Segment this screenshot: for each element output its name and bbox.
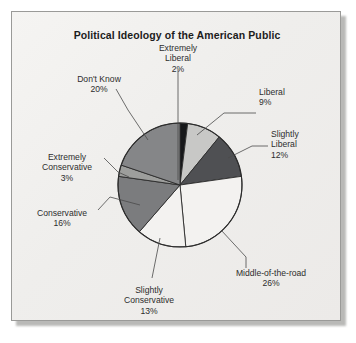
pie-slice-middle-of-the-road[interactable] [180, 176, 242, 246]
pie-label-name2-extremely-liberal: Liberal [141, 53, 215, 63]
pie-label-slightly-liberal: SlightlyLiberal12% [271, 129, 327, 160]
pie-label-extremely-liberal: ExtremelyLiberal2% [141, 43, 215, 74]
pie-label-name-middle-of-the-road: Middle-of-the-road [223, 268, 319, 278]
pie-label-name-extremely-conservative: Extremely [27, 152, 107, 162]
pie-label-percent-extremely-liberal: 2% [141, 64, 215, 74]
pie-label-extremely-conservative: ExtremelyConservative3% [27, 152, 107, 183]
pie-label-don-t-know: Don't Know20% [58, 74, 140, 95]
pie-label-percent-middle-of-the-road: 26% [223, 278, 319, 288]
pie-slices [118, 123, 242, 247]
pie-label-middle-of-the-road: Middle-of-the-road26% [223, 268, 319, 289]
pie-label-name-don-t-know: Don't Know [58, 74, 140, 84]
pie-label-name-extremely-liberal: Extremely [141, 43, 215, 53]
pie-chart-figure: Political Ideology of the American Publi… [0, 0, 356, 343]
pie-label-name-conservative: Conservative [24, 208, 100, 218]
pie-label-name-slightly-liberal: Slightly [271, 129, 327, 139]
pie-label-percent-extremely-conservative: 3% [27, 173, 107, 183]
pie-label-liberal: Liberal9% [259, 87, 323, 108]
pie-label-name2-slightly-liberal: Liberal [271, 139, 327, 149]
pie-label-name-liberal: Liberal [259, 87, 323, 97]
pie-label-percent-liberal: 9% [259, 97, 323, 107]
leader-line-slightly-conservative [152, 238, 160, 278]
pie-label-percent-don-t-know: 20% [58, 84, 140, 94]
pie-label-conservative: Conservative16% [24, 208, 100, 229]
pie-label-percent-slightly-liberal: 12% [271, 150, 327, 160]
leader-line-dont-know [116, 89, 148, 140]
pie-label-name-slightly-conservative: Slightly [106, 285, 192, 295]
pie-label-slightly-conservative: SlightlyConservative13% [106, 285, 192, 316]
pie-label-percent-conservative: 16% [24, 218, 100, 228]
leader-line-middle-of-the-road [221, 230, 246, 268]
pie-label-name2-slightly-conservative: Conservative [106, 295, 192, 305]
pie-label-name2-extremely-conservative: Conservative [27, 162, 107, 172]
pie-label-percent-slightly-conservative: 13% [106, 306, 192, 316]
